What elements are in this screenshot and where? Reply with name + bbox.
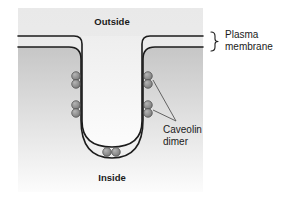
label-plasma-membrane-line1: Plasma	[225, 29, 259, 40]
diagram-canvas: Outside Inside Plasma membrane Caveolin …	[0, 0, 297, 200]
caveolin-monomer	[72, 72, 81, 81]
caveolae-diagram: Outside Inside Plasma membrane Caveolin …	[0, 0, 297, 200]
caveolin-monomer	[144, 80, 153, 89]
caveolin-monomer	[72, 101, 81, 110]
caveola-lumen	[82, 36, 142, 146]
caveolin-monomer	[72, 80, 81, 89]
caveolin-monomer	[144, 101, 153, 110]
plasma-membrane-brace	[211, 32, 218, 51]
caveolin-monomer	[103, 148, 112, 157]
caveolin-monomer	[144, 72, 153, 81]
caveolin-monomer	[144, 109, 153, 118]
label-caveolin-dimer-line1: Caveolin	[163, 124, 202, 135]
caveolin-monomer	[72, 109, 81, 118]
label-plasma-membrane-line2: membrane	[225, 41, 273, 52]
label-inside: Inside	[98, 172, 125, 183]
caveolin-monomer	[112, 148, 121, 157]
label-outside: Outside	[94, 16, 129, 27]
label-caveolin-dimer-line2: dimer	[163, 136, 189, 147]
